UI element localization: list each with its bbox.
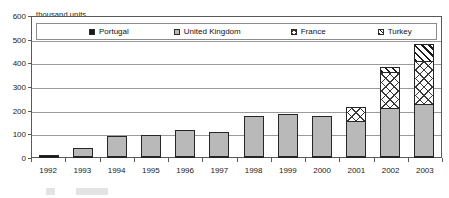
y-axis-tick-label: 400 [0, 59, 26, 68]
diagonal-stripe-swatch-icon [378, 29, 384, 35]
stacked-bar[interactable] [141, 135, 161, 157]
solid-gray-swatch-icon [174, 29, 180, 35]
x-axis-tick-label: 1999 [273, 166, 303, 175]
legend-label-portugal: Portugal [99, 27, 129, 36]
stacked-bar[interactable] [107, 136, 127, 157]
x-axis-tickmark [305, 158, 306, 162]
y-axis-tick-label: 200 [0, 106, 26, 115]
y-axis-tick-label: 600 [0, 12, 26, 21]
x-axis-tickmark [31, 158, 32, 162]
x-axis-tick-label: 2002 [375, 166, 405, 175]
x-axis-tickmark [168, 158, 169, 162]
x-axis-tick-label: 1995 [136, 166, 166, 175]
bar-segment-france [414, 61, 434, 104]
solid-black-swatch-icon [89, 29, 95, 35]
legend-label-france: France [301, 27, 326, 36]
stacked-bar[interactable] [414, 44, 434, 157]
bar-segment-uk [312, 116, 332, 157]
x-axis-tickmark [65, 158, 66, 162]
bar-segment-uk [380, 108, 400, 157]
stacked-bar[interactable] [312, 116, 332, 157]
legend-item-france[interactable]: France [291, 27, 326, 36]
x-axis-tick-label: 1992 [33, 166, 63, 175]
x-axis-tickmarks [31, 158, 442, 163]
legend-label-united-kingdom: United Kingdom [184, 27, 241, 36]
legend-item-turkey[interactable]: Turkey [378, 27, 412, 36]
stacked-bar[interactable] [175, 130, 195, 157]
cropped-footer-artifact [46, 188, 166, 195]
x-axis-tickmark [408, 158, 409, 162]
chart-legend: Portugal United Kingdom France Turkey [36, 23, 437, 40]
bar-segment-uk [244, 116, 264, 157]
x-axis-tickmark [134, 158, 135, 162]
x-axis-tickmark [442, 158, 443, 162]
x-axis-tick-label: 2001 [341, 166, 371, 175]
x-axis-tickmark [237, 158, 238, 162]
bar-segment-uk [141, 135, 161, 157]
bar-segment-uk [175, 130, 195, 157]
legend-label-turkey: Turkey [388, 27, 412, 36]
x-axis-tick-label: 2000 [307, 166, 337, 175]
x-axis-tick-label: 1994 [101, 166, 131, 175]
y-axis-tick-label: 300 [0, 83, 26, 92]
stacked-bar[interactable] [39, 155, 59, 157]
stacked-bar[interactable] [278, 114, 298, 157]
bar-segment-france [346, 107, 366, 122]
stacked-bar[interactable] [346, 107, 366, 157]
x-axis-tickmark [202, 158, 203, 162]
legend-item-portugal[interactable]: Portugal [89, 27, 129, 36]
x-axis-tick-label: 1993 [67, 166, 97, 175]
bar-segment-uk [346, 121, 366, 157]
x-axis-tickmark [100, 158, 101, 162]
stacked-bar[interactable] [380, 67, 400, 157]
cross-hatch-swatch-icon [291, 29, 297, 35]
y-axis-tick-label: 100 [0, 130, 26, 139]
bar-segment-uk [278, 114, 298, 157]
stacked-bar[interactable] [244, 116, 264, 157]
x-axis-labels: 1992199319941995199619971998199920002001… [31, 166, 442, 175]
bar-segment-france [380, 72, 400, 109]
x-axis-tick-label: 1998 [238, 166, 268, 175]
legend-item-united-kingdom[interactable]: United Kingdom [174, 27, 241, 36]
bar-segment-uk [414, 104, 434, 157]
stacked-bar[interactable] [73, 148, 93, 157]
x-axis-tick-label: 1997 [204, 166, 234, 175]
bar-segment-uk [107, 136, 127, 157]
bar-segment-turkey [414, 44, 434, 63]
x-axis-tick-label: 1996 [170, 166, 200, 175]
x-axis-tickmark [374, 158, 375, 162]
x-axis-tickmark [339, 158, 340, 162]
y-axis-tick-label: 0 [0, 154, 26, 163]
bar-segment-uk [209, 132, 229, 157]
stacked-bar[interactable] [209, 132, 229, 157]
y-axis-tick-label: 500 [0, 35, 26, 44]
x-axis-tickmark [271, 158, 272, 162]
chart-root: thousand units 6005004003002001000 19921… [0, 0, 449, 198]
x-axis-tick-label: 2003 [410, 166, 440, 175]
